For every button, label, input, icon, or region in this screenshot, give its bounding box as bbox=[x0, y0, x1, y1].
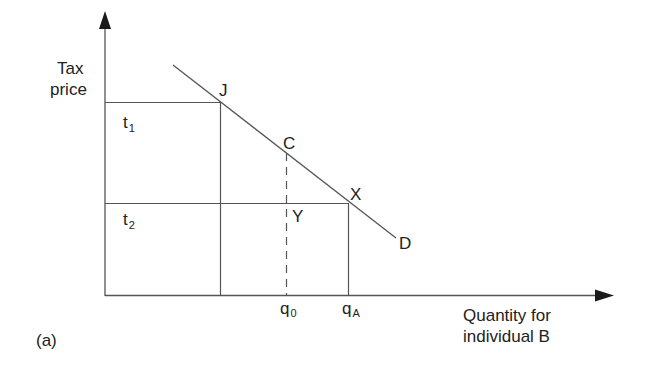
point-c-label: C bbox=[283, 134, 295, 153]
x-axis-label-line2: individual B bbox=[463, 327, 550, 346]
x-axis-arrow-icon bbox=[595, 290, 614, 302]
point-x-label: X bbox=[350, 185, 361, 204]
demand-curve-label: D bbox=[399, 234, 411, 253]
x-axis-label-line1: Quantity for bbox=[463, 306, 551, 325]
point-j-label: J bbox=[219, 81, 228, 100]
qa-label: qA bbox=[342, 299, 360, 319]
t2-label: t2 bbox=[123, 210, 135, 231]
guide-lines bbox=[105, 102, 349, 296]
point-y-label: Y bbox=[292, 207, 303, 226]
y-axis-label-line2: price bbox=[50, 80, 87, 99]
tax-price-diagram: Tax price t1 t2 J C X Y D q0 qA Quantity… bbox=[0, 0, 648, 373]
q0-label: q0 bbox=[280, 299, 297, 319]
y-axis-label-line1: Tax bbox=[57, 59, 84, 78]
y-axis-arrow-icon bbox=[99, 11, 111, 29]
axes bbox=[105, 26, 598, 296]
t1-label: t1 bbox=[123, 113, 135, 134]
panel-label: (a) bbox=[36, 331, 57, 350]
